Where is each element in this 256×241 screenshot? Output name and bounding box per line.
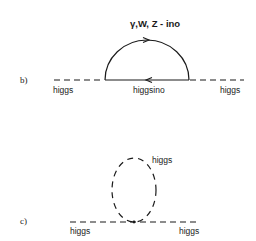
- gaugino-loop-label: γ,W, Z - ino: [130, 18, 180, 29]
- higgs-loop: [112, 158, 156, 222]
- feynman-diagrams: b) γ,W, Z - ino higgs higgsino higgs c) …: [0, 0, 256, 241]
- gaugino-arc: [105, 40, 189, 80]
- right-higgs-label-c: higgs: [179, 226, 199, 236]
- panel-label-c: c): [20, 216, 27, 226]
- vertex-dot: [133, 221, 136, 224]
- diagram-b: b) γ,W, Z - ino higgs higgsino higgs: [20, 18, 244, 95]
- diagram-c: c) higgs higgs higgs: [20, 155, 200, 236]
- higgs-loop-label: higgs: [152, 155, 172, 165]
- panel-label-b: b): [20, 75, 28, 85]
- right-higgs-label-b: higgs: [220, 85, 240, 95]
- left-higgs-label-b: higgs: [53, 85, 73, 95]
- higgsino-label: higgsino: [133, 85, 165, 95]
- left-higgs-label-c: higgs: [70, 226, 90, 236]
